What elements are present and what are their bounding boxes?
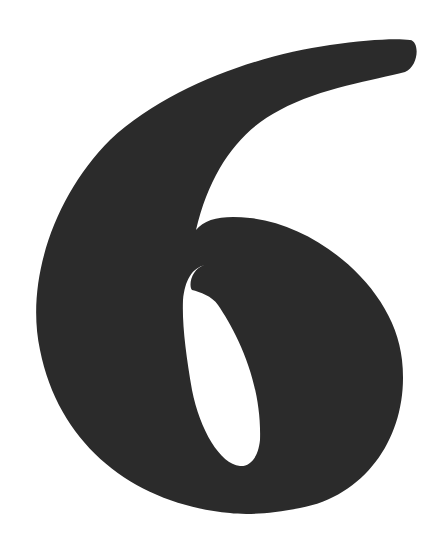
numeral-six-icon bbox=[0, 0, 446, 548]
six-glyph-shape bbox=[36, 39, 416, 514]
glyph-canvas: 6 bbox=[0, 0, 446, 548]
